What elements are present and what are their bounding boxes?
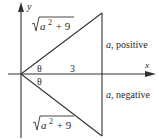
x-axis-label: x <box>144 60 149 70</box>
opposite-negative-text: , negative <box>111 89 150 100</box>
adjacent-side-label: 3 <box>70 63 75 74</box>
opposite-negative-label: a, negative <box>106 89 150 100</box>
lower-angle-theta-label: θ <box>37 76 42 87</box>
y-axis-arrow-icon <box>18 2 24 12</box>
y-axis: y <box>18 1 32 138</box>
y-axis-label: y <box>26 1 32 12</box>
svg-text:+ 9: + 9 <box>54 119 72 131</box>
svg-text:2: 2 <box>48 18 52 27</box>
reference-triangle-diagram: y x a 2 + 9 θ 3 θ a, positive a, negativ… <box>0 0 159 140</box>
x-axis: x <box>8 60 156 77</box>
svg-text:+ 9: + 9 <box>53 20 71 32</box>
svg-text:2: 2 <box>49 117 53 126</box>
lower-hypotenuse-label: a 2 + 9 <box>33 116 74 131</box>
x-axis-arrow-icon <box>145 71 156 77</box>
opposite-positive-label: a, positive <box>106 39 148 50</box>
upper-angle-theta-label: θ <box>37 63 42 74</box>
upper-hypotenuse-label: a 2 + 9 <box>32 17 74 32</box>
opposite-positive-text: , positive <box>111 39 148 50</box>
svg-text:a: a <box>41 119 47 131</box>
svg-text:a: a <box>40 20 46 32</box>
